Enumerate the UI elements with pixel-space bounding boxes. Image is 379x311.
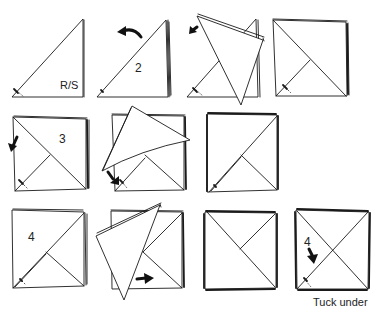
panel-r1p4-folded-square — [273, 19, 349, 96]
panel-r3p3-square-diagonal — [204, 211, 277, 290]
panel-r3p2-flap-folding-across — [96, 203, 184, 300]
label-step-2: 2 — [135, 62, 142, 74]
panel-r2p3-square-diagonal — [207, 113, 278, 192]
panel-r1p3-flap-folding — [187, 14, 264, 105]
arrow-down-left-icon — [189, 26, 197, 34]
curved-arrow-left-icon — [117, 26, 141, 37]
label-step-4-tuck: 4 — [304, 236, 311, 248]
panel-r3p1-square-step4 — [12, 209, 87, 288]
panel-r2p2-flap-lifting — [102, 106, 190, 191]
label-step-4: 4 — [28, 231, 35, 243]
label-step-3: 3 — [59, 133, 66, 145]
panel-r2p1-square-diagonal — [8, 116, 89, 191]
label-tuck-under: Tuck under — [313, 297, 368, 308]
panel-r3p4-tuck-under — [295, 209, 370, 290]
napkin-folding-diagram — [0, 0, 379, 311]
label-right-side: R/S — [60, 80, 78, 91]
panel-r1p2-triangle-layers — [97, 20, 171, 97]
